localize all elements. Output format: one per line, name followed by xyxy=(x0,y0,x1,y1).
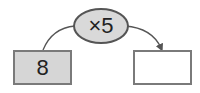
input-value: 8 xyxy=(36,55,48,81)
connector-right-arrow xyxy=(125,26,161,48)
output-box[interactable] xyxy=(133,50,192,85)
input-box: 8 xyxy=(13,50,72,85)
operator-label: ×5 xyxy=(88,13,113,39)
operator-oval: ×5 xyxy=(73,8,129,44)
connector-left xyxy=(43,26,75,50)
